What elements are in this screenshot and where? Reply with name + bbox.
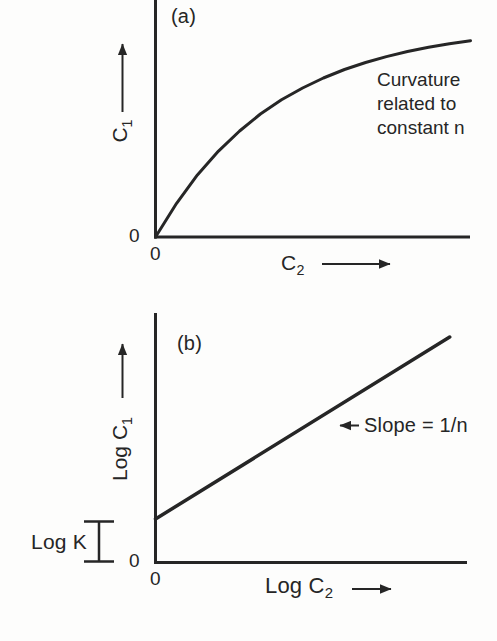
panel-b-y-axis-label-sub: 1 — [119, 417, 135, 425]
panel-b-x-axis-label-main: Log C — [265, 573, 325, 598]
panel-b-x-axis-label: Log C2 — [265, 574, 333, 598]
panel-b-x-origin-zero: 0 — [150, 569, 161, 590]
panel-b-y-axis-label: Log C1 — [108, 417, 132, 481]
panel-b-intercept-label: Log K — [31, 530, 87, 553]
figure-canvas: (a) C1 0 0 C2 Curvature related to const… — [0, 0, 497, 641]
panel-b-x-axis-label-sub: 2 — [325, 584, 334, 601]
panel-a-y-axis-label-main: C — [108, 127, 131, 142]
panel-b-y-axis-label-main: Log C — [108, 425, 131, 481]
panel-a-x-axis-label-sub: 2 — [296, 262, 304, 278]
log-k-interval-bracket — [84, 522, 114, 562]
panel-a-y-axis-label: C1 — [108, 119, 132, 142]
panel-b-y-origin-zero: 0 — [129, 551, 140, 572]
panel-a-curvature-annotation: Curvature related to constant n — [377, 68, 487, 140]
panel-b-label: (b) — [177, 332, 202, 354]
panel-b-slope-annotation: Slope = 1/n — [364, 414, 468, 436]
panel-a-x-origin-zero: 0 — [150, 244, 161, 265]
panel-a-y-origin-zero: 0 — [129, 226, 140, 247]
panel-a-y-axis-label-sub: 1 — [119, 119, 135, 127]
panel-a-x-axis-label-main: C — [281, 251, 296, 274]
panel-a-label: (a) — [171, 5, 196, 27]
panel-a-x-axis-label: C2 — [281, 251, 305, 274]
